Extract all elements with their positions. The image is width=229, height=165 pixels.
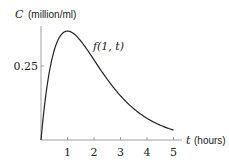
x-tick-label: 4: [144, 146, 151, 159]
x-tick-label: 3: [117, 146, 124, 159]
curve-label: f(1, t): [92, 40, 124, 53]
y-axis-unit: (million/ml): [28, 9, 76, 20]
x-axis-unit: (hours): [194, 135, 226, 146]
x-axis-var: t: [186, 134, 191, 147]
x-tick-label: 1: [64, 146, 71, 159]
chart: 0.25 12345 f(1, t) C (million/ml) t (hou…: [0, 0, 229, 165]
x-tick-label: 5: [170, 146, 177, 159]
chart-svg: 0.25 12345 f(1, t) C (million/ml) t (hou…: [0, 0, 229, 165]
y-axis-var: C: [15, 8, 24, 21]
x-tick-label: 2: [91, 146, 98, 159]
y-tick-label: 0.25: [14, 60, 39, 73]
